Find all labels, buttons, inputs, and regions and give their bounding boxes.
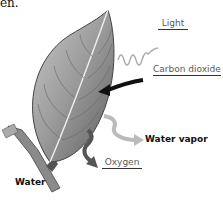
label-light: Light (158, 18, 188, 30)
label-water-vapor: Water vapor (145, 134, 208, 144)
leaf-diagram (0, 0, 223, 201)
light-wave-icon (118, 48, 158, 65)
water-vapor-arrow-icon (104, 116, 136, 140)
label-water: Water (15, 177, 46, 187)
leaf-illustration (33, 10, 114, 162)
label-oxygen: Oxygen (102, 157, 142, 169)
carbon-dioxide-arrow-icon (108, 80, 143, 90)
label-carbon-dioxide: Carbon dioxide (153, 64, 221, 76)
